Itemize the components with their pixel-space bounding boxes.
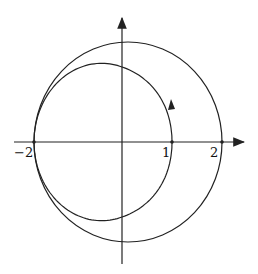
point-two — [220, 140, 224, 144]
tick-label-one: 1 — [162, 146, 170, 159]
tick-label-neg-two: −2 — [14, 146, 33, 159]
point-one — [170, 140, 174, 144]
direction-arrow-icon — [168, 99, 175, 110]
point-neg-two — [32, 140, 36, 144]
polar-diagram — [0, 0, 258, 274]
tick-label-two: 2 — [210, 146, 218, 159]
